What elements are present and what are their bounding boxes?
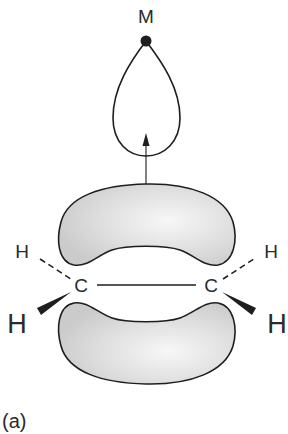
pi-orbital-lower-lobe <box>59 303 235 384</box>
orbital-diagram: M C C H H H H (a) <box>0 0 288 434</box>
hydrogen-front-right-label: H <box>267 309 287 339</box>
donation-arrow-head <box>143 133 150 146</box>
pi-orbital-upper-lobe <box>59 184 235 265</box>
hydrogen-back-right-label: H <box>264 241 278 262</box>
hydrogen-front-left-label: H <box>7 309 27 339</box>
right-dashed-bond <box>223 259 254 279</box>
panel-label: (a) <box>2 410 26 432</box>
metal-label: M <box>138 6 154 27</box>
carbon-left-label: C <box>74 275 88 296</box>
carbon-right-label: C <box>204 275 218 296</box>
hydrogen-back-left-label: H <box>15 241 29 262</box>
